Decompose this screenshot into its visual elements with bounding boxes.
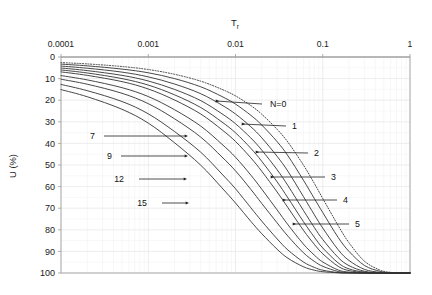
y-tick-label: 50 [45, 160, 55, 170]
annotation-label: 4 [343, 195, 348, 205]
y-tick-label: 10 [45, 74, 55, 84]
y-tick-label: 40 [45, 139, 55, 149]
x-tick-label: 0.01 [227, 39, 244, 49]
annotation-label: 3 [331, 172, 336, 182]
annotation-label: 7 [90, 131, 95, 141]
y-tick-label: 30 [45, 117, 55, 127]
chart-figure: 0.00010.0010.010.11 01020304050607080901… [0, 0, 432, 295]
y-tick-label: 70 [45, 203, 55, 213]
annotation-label: N=0 [270, 99, 286, 109]
annotation-label: 1 [292, 121, 297, 131]
x-tick-label: 1 [408, 39, 413, 49]
y-tick-label: 90 [45, 247, 55, 257]
annotation-label: 15 [137, 198, 147, 208]
x-tick-label: 0.0001 [48, 39, 75, 49]
annotation-label: 9 [107, 151, 112, 161]
y-tick-label: 100 [40, 268, 55, 278]
y-axis-title: U (%) [7, 154, 18, 178]
y-tick-label: 80 [45, 225, 55, 235]
annotation-label: 12 [114, 174, 124, 184]
y-tick-label: 20 [45, 95, 55, 105]
y-tick-label: 0 [50, 52, 55, 62]
consolidation-chart: 0.00010.0010.010.11 01020304050607080901… [0, 0, 432, 295]
x-tick-label: 0.001 [137, 39, 159, 49]
x-tick-label: 0.1 [317, 39, 329, 49]
annotation-label: 5 [355, 219, 360, 229]
annotation-label: 2 [314, 148, 319, 158]
y-tick-label: 60 [45, 182, 55, 192]
